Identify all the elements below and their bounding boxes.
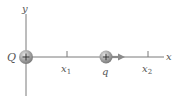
test-charge-label: q [102,66,108,77]
electric-charge-diagram: y x x1 x2 Q q [0,0,180,101]
y-axis-label: y [21,3,28,14]
x-axis-label: x [166,51,172,62]
test-charge-q [100,51,113,64]
tick-x2-label: x2 [142,63,152,76]
source-charge-Q [19,50,33,64]
tick-x1-label: x1 [61,63,71,76]
source-charge-label: Q [7,51,16,64]
